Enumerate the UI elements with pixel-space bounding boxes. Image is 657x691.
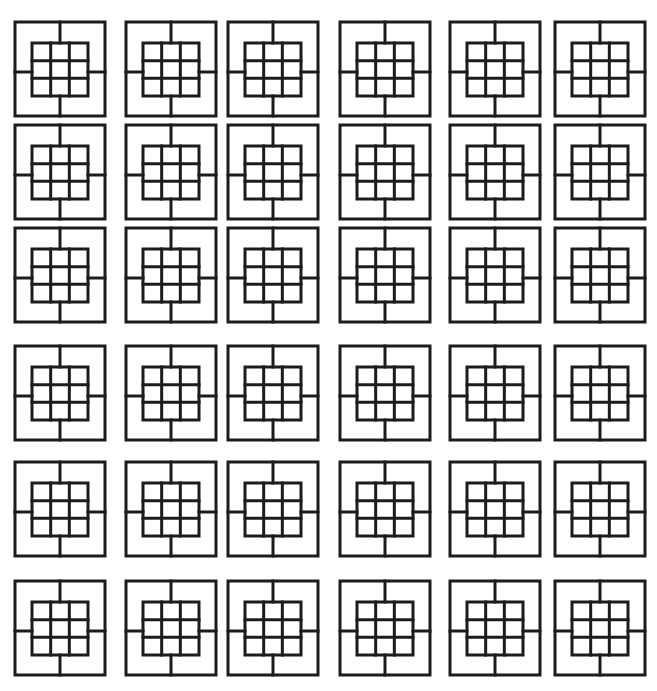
grid-tile [15, 125, 105, 219]
tile-pattern-icon [126, 22, 216, 116]
tile-pattern-icon [228, 125, 318, 219]
grid-tile [555, 462, 645, 556]
tile-pattern-icon [126, 581, 216, 675]
grid-tile [228, 22, 318, 116]
grid-tile [555, 125, 645, 219]
tile-pattern-icon [450, 346, 540, 440]
grid-tile [555, 346, 645, 440]
grid-tile [15, 228, 105, 322]
grid-tile [126, 581, 216, 675]
grid-tile [340, 125, 430, 219]
grid-tile [555, 581, 645, 675]
grid-tile [450, 125, 540, 219]
tile-pattern-icon [126, 125, 216, 219]
tile-pattern-icon [450, 228, 540, 322]
grid-tile [15, 346, 105, 440]
tile-pattern-icon [15, 125, 105, 219]
tile-pattern-icon [15, 228, 105, 322]
grid-tile [228, 462, 318, 556]
grid-tile [450, 581, 540, 675]
tile-pattern-icon [340, 125, 430, 219]
grid-tile [126, 125, 216, 219]
grid-tile [340, 346, 430, 440]
tile-pattern-icon [450, 125, 540, 219]
tile-pattern-icon [15, 462, 105, 556]
grid-tile [450, 346, 540, 440]
grid-tile [450, 228, 540, 322]
grid-tile [340, 581, 430, 675]
grid-tile [126, 462, 216, 556]
grid-tile [15, 581, 105, 675]
tile-pattern-icon [340, 581, 430, 675]
tile-pattern-icon [228, 581, 318, 675]
tile-pattern-icon [340, 462, 430, 556]
tile-pattern-icon [340, 228, 430, 322]
tile-pattern-icon [450, 22, 540, 116]
grid-tile [450, 22, 540, 116]
tile-pattern-icon [15, 581, 105, 675]
grid-tile [228, 346, 318, 440]
tile-pattern-icon [15, 346, 105, 440]
tile-pattern-icon [450, 462, 540, 556]
grid-tile [126, 22, 216, 116]
tile-pattern-icon [126, 462, 216, 556]
grid-tile [555, 228, 645, 322]
grid-tile [228, 125, 318, 219]
grid-tile [15, 462, 105, 556]
grid-tile [228, 581, 318, 675]
tile-pattern-icon [450, 581, 540, 675]
tile-pattern-icon [340, 346, 430, 440]
tile-pattern-icon [126, 228, 216, 322]
tile-pattern-icon [228, 228, 318, 322]
tile-pattern-icon [340, 22, 430, 116]
tile-pattern-icon [555, 346, 645, 440]
grid-tile [340, 228, 430, 322]
tile-pattern-icon [228, 346, 318, 440]
tile-pattern-icon [228, 462, 318, 556]
tile-pattern-icon [555, 581, 645, 675]
tile-pattern-icon [555, 125, 645, 219]
grid-tile [126, 228, 216, 322]
grid-tile [228, 228, 318, 322]
grid-tile [126, 346, 216, 440]
grid-tile [450, 462, 540, 556]
tile-pattern-icon [228, 22, 318, 116]
grid-tile [340, 462, 430, 556]
tile-pattern-icon [555, 462, 645, 556]
tile-pattern-icon [15, 22, 105, 116]
grid-tile [15, 22, 105, 116]
grid-tile [340, 22, 430, 116]
tile-pattern-icon [126, 346, 216, 440]
tile-pattern-icon [555, 22, 645, 116]
grid-tile [555, 22, 645, 116]
tile-pattern-icon [555, 228, 645, 322]
